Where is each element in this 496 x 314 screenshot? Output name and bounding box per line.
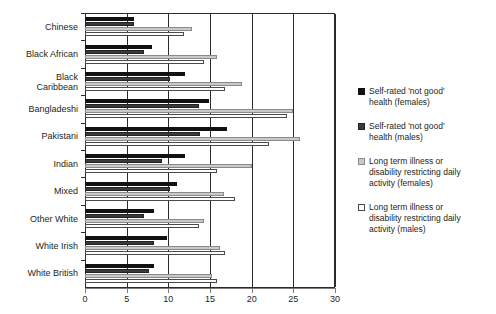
bar — [85, 50, 144, 54]
legend-swatch-icon — [358, 204, 365, 211]
bar — [85, 251, 225, 255]
gridline-30 — [335, 14, 336, 287]
x-axis-label-15: 15 — [205, 294, 215, 304]
legend-item: Self-rated 'not good'health (females) — [358, 86, 496, 108]
x-axis-label-5: 5 — [124, 294, 129, 304]
bar — [85, 279, 217, 283]
legend-label: Long term illness ordisability restricti… — [369, 156, 461, 189]
bar — [85, 154, 185, 158]
bar-group — [85, 150, 335, 177]
bar — [85, 72, 185, 76]
bar-group — [85, 205, 335, 232]
x-axis-label-25: 25 — [288, 294, 298, 304]
bar — [85, 214, 144, 218]
bar-group — [85, 40, 335, 67]
legend-label: Long term illness ordisability restricti… — [369, 202, 461, 235]
bar-chart: ChineseBlack AfricanBlackCaribbeanBangla… — [0, 0, 350, 314]
chart-legend: Self-rated 'not good'health (females)Sel… — [358, 86, 496, 248]
bar-group — [85, 13, 335, 40]
y-axis-label-white-irish: White Irish — [0, 232, 82, 259]
bar-groups — [85, 13, 335, 287]
legend-label: Self-rated 'not good'health (males) — [369, 121, 445, 143]
bar — [85, 77, 170, 81]
y-axis-label-bangladeshi: Bangladeshi — [0, 95, 82, 122]
bar-group — [85, 95, 335, 122]
bar — [85, 109, 293, 113]
bar — [85, 182, 177, 186]
x-axis-tick-0 — [85, 288, 86, 293]
y-axis-label-white-british: White British — [0, 260, 82, 287]
legend-swatch-icon — [358, 88, 365, 95]
x-axis-tick-25 — [293, 288, 294, 293]
x-axis-tick-15 — [210, 288, 211, 293]
legend-item: Long term illness ordisability restricti… — [358, 202, 496, 235]
bar — [85, 187, 170, 191]
bar — [85, 132, 200, 136]
bar — [85, 236, 167, 240]
bar — [85, 27, 192, 31]
bar — [85, 197, 235, 201]
bar — [85, 246, 220, 250]
bar — [85, 219, 204, 223]
y-axis-tick — [81, 95, 85, 96]
legend-swatch-icon — [358, 158, 365, 165]
bar — [85, 209, 154, 213]
bar — [85, 224, 199, 228]
bar — [85, 164, 252, 168]
bar — [85, 274, 212, 278]
y-axis-tick — [81, 68, 85, 69]
bar — [85, 17, 134, 21]
y-axis-labels: ChineseBlack AfricanBlackCaribbeanBangla… — [0, 13, 82, 287]
bar — [85, 264, 154, 268]
y-axis-tick — [81, 260, 85, 261]
bar — [85, 22, 134, 26]
y-axis-tick — [81, 232, 85, 233]
legend-label: Self-rated 'not good'health (females) — [369, 86, 445, 108]
bar — [85, 127, 227, 131]
bar-group — [85, 123, 335, 150]
x-axis-tick-5 — [127, 288, 128, 293]
x-axis-label-0: 0 — [82, 294, 87, 304]
x-axis-label-10: 10 — [163, 294, 173, 304]
bar — [85, 32, 184, 36]
bar — [85, 82, 242, 86]
bar-group — [85, 68, 335, 95]
bar-group — [85, 177, 335, 204]
bar — [85, 45, 152, 49]
x-axis-label-20: 20 — [247, 294, 257, 304]
bar — [85, 142, 269, 146]
x-axis-label-30: 30 — [330, 294, 340, 304]
y-axis-tick — [81, 123, 85, 124]
bar — [85, 55, 217, 59]
bar — [85, 114, 287, 118]
bar — [85, 104, 199, 108]
bar — [85, 87, 225, 91]
y-axis-tick — [81, 205, 85, 206]
y-axis-label-mixed: Mixed — [0, 177, 82, 204]
legend-item: Self-rated 'not good'health (males) — [358, 121, 496, 143]
legend-swatch-icon — [358, 123, 365, 130]
y-axis-label-black-caribbean: BlackCaribbean — [0, 68, 82, 95]
bar-group — [85, 232, 335, 259]
y-axis-label-indian: Indian — [0, 150, 82, 177]
bar — [85, 99, 209, 103]
y-axis-label-pakistani: Pakistani — [0, 123, 82, 150]
bar — [85, 137, 300, 141]
chart-page: ChineseBlack AfricanBlackCaribbeanBangla… — [0, 0, 496, 314]
y-axis-label-black-african: Black African — [0, 40, 82, 67]
bar — [85, 169, 217, 173]
y-axis-label-other-white: Other White — [0, 205, 82, 232]
bar-group — [85, 260, 335, 287]
x-axis-tick-10 — [168, 288, 169, 293]
y-axis-tick — [81, 150, 85, 151]
x-axis-tick-20 — [252, 288, 253, 293]
x-axis-tick-30 — [335, 288, 336, 293]
bar — [85, 192, 224, 196]
y-axis-tick — [81, 40, 85, 41]
bar — [85, 241, 154, 245]
bar — [85, 269, 149, 273]
y-axis-tick — [81, 13, 85, 14]
legend-item: Long term illness ordisability restricti… — [358, 156, 496, 189]
bar — [85, 159, 162, 163]
bar — [85, 60, 204, 64]
